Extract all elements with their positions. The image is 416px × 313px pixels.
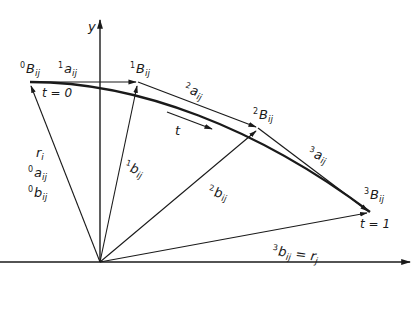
vector-3b-ij [100,213,367,262]
left-label-0b: 0bij [28,186,47,202]
t-end-label: t = 1 [360,218,390,230]
point-label-B2: 2Bij [253,108,273,124]
y-axis-label: y [88,20,96,33]
point-label-B0: 0Bij [20,62,40,78]
left-label-r-i: ri [36,146,44,162]
point-label-B1: 1Bij [130,62,150,78]
bezier-vector-diagram [0,0,416,313]
t-start-label: t = 0 [42,87,72,99]
point-label-B3: 3Bij [364,188,384,204]
left-label-0a: 0aij [28,166,47,182]
edge-label-1a: 1aij [58,62,77,78]
t-direction-label: t [175,124,180,137]
t-direction-arrow [167,112,212,129]
